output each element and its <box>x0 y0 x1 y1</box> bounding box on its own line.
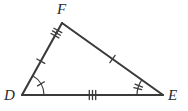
vertex-label-e: E <box>168 88 177 103</box>
df-triple-tick <box>51 28 62 38</box>
triangle-diagram-svg <box>0 0 188 111</box>
vertex-label-f: F <box>57 2 66 17</box>
side-df <box>22 23 62 95</box>
geometry-figure: F D E <box>0 0 188 111</box>
angle-D-tick-1 <box>38 82 45 86</box>
side-congruence-ticks <box>37 28 115 99</box>
angle-E <box>134 80 143 95</box>
angle-marks <box>33 76 143 95</box>
angle-E-arc <box>137 80 142 95</box>
triangle-sides <box>22 23 163 95</box>
vertex-label-d: D <box>4 88 15 103</box>
angle-D <box>33 76 45 95</box>
